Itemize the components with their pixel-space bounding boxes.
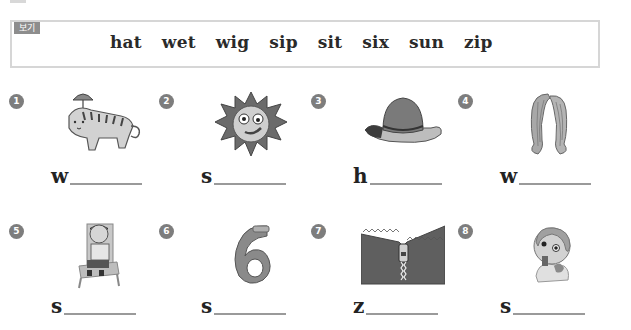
exercise-item-3: 3 h: [311, 94, 461, 214]
answer-line[interactable]: s: [201, 166, 286, 186]
first-letter: z: [353, 296, 364, 316]
item-number-badge: 4: [458, 94, 473, 109]
wet-cat-icon: [59, 90, 143, 160]
first-letter: h: [353, 166, 368, 186]
answer-line[interactable]: s: [51, 296, 136, 316]
word-bank-list: hat wet wig sip sit six sun zip: [110, 32, 513, 52]
word-bank-word: sun: [409, 32, 444, 52]
exercise-item-1: 1 w: [9, 94, 159, 214]
item-number-badge: 6: [159, 224, 174, 239]
word-bank-word: hat: [110, 32, 142, 52]
blank-field[interactable]: [214, 313, 286, 315]
first-letter: s: [51, 296, 62, 316]
exercise-item-5: 5 s: [9, 224, 159, 330]
answer-line[interactable]: h: [353, 166, 442, 186]
item-number-badge: 8: [458, 224, 473, 239]
word-bank-word: zip: [464, 32, 493, 52]
answer-line[interactable]: s: [201, 296, 286, 316]
word-bank-word: wig: [216, 32, 250, 52]
word-bank-label: 보기: [14, 22, 40, 34]
word-bank-word: wet: [162, 32, 196, 52]
first-letter: w: [51, 166, 68, 186]
boy-sitting-icon: [59, 220, 143, 290]
item-number-badge: 2: [159, 94, 174, 109]
corner-mark: [10, 0, 26, 3]
item-number-badge: 1: [9, 94, 24, 109]
exercise-item-2: 2 s: [159, 94, 309, 214]
hat-icon: [361, 90, 445, 160]
first-letter: s: [500, 296, 511, 316]
blank-field[interactable]: [214, 183, 286, 185]
exercise-item-8: 8 s: [458, 224, 608, 330]
boy-sipping-icon: [508, 220, 592, 290]
item-number-badge: 3: [311, 94, 326, 109]
wig-icon: [508, 90, 592, 160]
answer-line[interactable]: s: [500, 296, 585, 316]
first-letter: s: [201, 166, 212, 186]
blank-field[interactable]: [70, 183, 142, 185]
word-bank-word: sip: [269, 32, 298, 52]
blank-field[interactable]: [64, 313, 136, 315]
exercise-item-7: 7 z: [311, 224, 461, 330]
number-six-icon: [209, 220, 293, 290]
word-bank-word: sit: [318, 32, 342, 52]
word-bank-box: 보기 hat wet wig sip sit six sun zip: [10, 20, 600, 68]
answer-line[interactable]: w: [500, 166, 591, 186]
answer-line[interactable]: z: [353, 296, 438, 316]
exercise-item-6: 6 s: [159, 224, 309, 330]
first-letter: s: [201, 296, 212, 316]
item-number-badge: 7: [311, 224, 326, 239]
sun-icon: [209, 90, 293, 160]
exercise-item-4: 4 w: [458, 94, 608, 214]
word-bank-word: six: [362, 32, 389, 52]
first-letter: w: [500, 166, 517, 186]
blank-field[interactable]: [513, 313, 585, 315]
blank-field[interactable]: [519, 183, 591, 185]
zipper-icon: [361, 220, 445, 290]
answer-line[interactable]: w: [51, 166, 142, 186]
item-number-badge: 5: [9, 224, 24, 239]
blank-field[interactable]: [366, 313, 438, 315]
blank-field[interactable]: [370, 183, 442, 185]
